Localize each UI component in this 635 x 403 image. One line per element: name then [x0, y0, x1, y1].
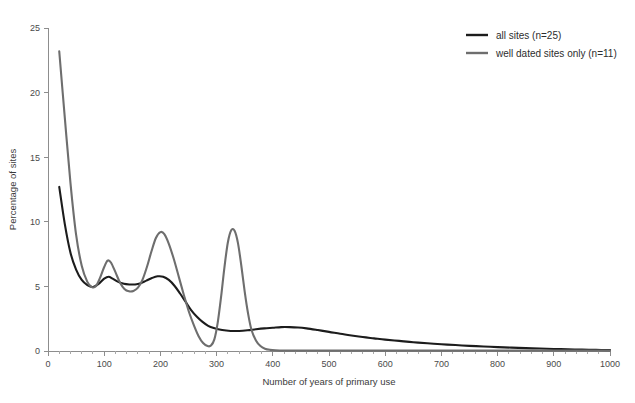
legend-label-0: all sites (n=25) — [496, 30, 561, 41]
y-axis-title: Percentage of sites — [7, 149, 18, 231]
x-tick-label: 800 — [490, 359, 505, 369]
chart-legend: all sites (n=25)well dated sites only (n… — [466, 30, 617, 59]
y-axis-tick-labels: 0510152025 — [30, 23, 40, 356]
y-tick-label: 20 — [30, 88, 40, 98]
y-tick-label: 15 — [30, 153, 40, 163]
x-tick-label: 1000 — [600, 359, 620, 369]
x-tick-label: 700 — [434, 359, 449, 369]
y-tick-label: 10 — [30, 217, 40, 227]
chart-container: 01002003004005006007008009001000 0510152… — [0, 0, 635, 403]
y-tick-label: 0 — [35, 346, 40, 356]
x-tick-label: 900 — [546, 359, 561, 369]
series-line-0 — [59, 187, 610, 350]
x-tick-label: 100 — [97, 359, 112, 369]
y-tick-label: 5 — [35, 282, 40, 292]
y-axis-ticks — [44, 28, 49, 351]
x-tick-label: 600 — [378, 359, 393, 369]
line-chart: 01002003004005006007008009001000 0510152… — [0, 0, 635, 403]
x-axis-title: Number of years of primary use — [262, 376, 395, 387]
x-tick-label: 300 — [209, 359, 224, 369]
x-tick-label: 200 — [153, 359, 168, 369]
legend-label-1: well dated sites only (n=11) — [495, 48, 617, 59]
x-axis-tick-labels: 01002003004005006007008009001000 — [45, 359, 620, 369]
data-series-group — [59, 51, 610, 350]
x-tick-label: 0 — [45, 359, 50, 369]
x-tick-label: 400 — [265, 359, 280, 369]
y-tick-label: 25 — [30, 23, 40, 33]
x-tick-label: 500 — [321, 359, 336, 369]
series-line-1 — [59, 51, 610, 350]
axes-group — [48, 28, 610, 351]
x-axis-ticks — [48, 351, 610, 356]
